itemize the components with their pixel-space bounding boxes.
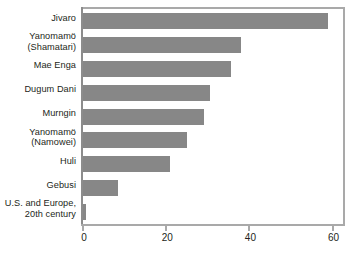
category-label: Huli xyxy=(0,156,76,167)
bars-layer xyxy=(83,9,343,224)
bar xyxy=(83,85,210,101)
category-axis-labels: JivaroYanomamö (Shamatari)Mae EngaDugum … xyxy=(0,7,76,226)
category-label: Dugum Dani xyxy=(0,84,76,95)
category-label: Jivaro xyxy=(0,13,76,24)
bar xyxy=(83,156,170,172)
x-axis-tick-label: 0 xyxy=(69,232,99,244)
x-axis-tick xyxy=(165,226,167,231)
x-axis-tick-label: 40 xyxy=(235,232,265,244)
x-axis-tick xyxy=(248,226,250,231)
bar xyxy=(83,204,86,220)
bar xyxy=(83,37,241,53)
x-axis-line xyxy=(81,224,345,226)
category-label: U.S. and Europe, 20th century xyxy=(0,198,76,219)
category-label: Yanomamö (Shamatari) xyxy=(0,31,76,52)
category-label: Gebusi xyxy=(0,180,76,191)
bar-chart: JivaroYanomamö (Shamatari)Mae EngaDugum … xyxy=(0,0,353,262)
bar xyxy=(83,132,187,148)
category-label: Murngin xyxy=(0,108,76,119)
bar xyxy=(83,61,231,77)
category-label: Mae Enga xyxy=(0,60,76,71)
bar xyxy=(83,13,328,29)
x-axis-tick xyxy=(332,226,334,231)
category-label: Yanomamö (Namowei) xyxy=(0,127,76,148)
x-axis-tick-label: 20 xyxy=(152,232,182,244)
bar xyxy=(83,109,204,125)
bar xyxy=(83,180,118,196)
x-axis-tick-label: 60 xyxy=(319,232,349,244)
x-axis-tick xyxy=(82,226,84,231)
